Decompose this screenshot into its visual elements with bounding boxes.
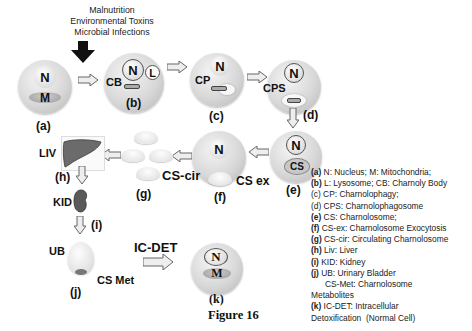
nucleus-k: N: [204, 248, 228, 266]
charnolosome-e: CS: [284, 158, 310, 175]
legend-row: (k) IC-DET: Intracellular: [311, 301, 448, 312]
legend-row: (b) L: Lysosome; CB: Charnoly Body: [311, 178, 448, 189]
kid-label: KID: [53, 196, 72, 208]
label-g: (g): [136, 187, 151, 201]
label-h: (h): [55, 170, 70, 184]
lysosome-b: L: [145, 65, 160, 80]
label-d: (d): [303, 108, 318, 122]
cs-ex-label: CS ex: [236, 174, 269, 188]
cb-label: CB: [106, 76, 122, 88]
label-e: (e): [286, 183, 301, 197]
legend-row: Detoxification (Normal Cell): [311, 313, 448, 324]
charnoly-body-c: [211, 86, 227, 91]
black-down-arrow-icon: [71, 41, 95, 63]
cps-label: CPS: [263, 82, 286, 94]
circulating-piece: [121, 149, 145, 162]
circulating-piece: [136, 167, 160, 180]
legend-row: (c) CP: Charnolophagy;: [311, 189, 448, 200]
cp-label: CP: [195, 74, 210, 86]
nucleus-b: N: [122, 59, 144, 81]
mito-k: M: [203, 268, 231, 279]
nucleus-f: N: [209, 139, 229, 159]
arrow-down-icon: [287, 108, 299, 128]
legend-row: (a) N: Nucleus; M: Mitochondria;: [311, 167, 448, 178]
arrow-left-icon: [172, 150, 192, 162]
legend-row: (e) CS: Charnolosome;: [311, 212, 448, 223]
legend-row: (h) Liv: Liver: [311, 245, 448, 256]
charnoly-body: [124, 84, 140, 89]
label-c: (c): [209, 109, 224, 123]
legend: (a) N: Nucleus; M: Mitochondria; (b) L: …: [311, 167, 448, 324]
circulating-piece: [134, 131, 158, 144]
cause-toxins: Environmental Toxins: [62, 16, 162, 27]
figure-caption: Figure 16: [208, 308, 259, 323]
nucleus-e: N: [286, 135, 306, 155]
liv-label: LIV: [39, 147, 56, 159]
label-f: (f): [214, 190, 226, 204]
cause-malnutrition: Malnutrition: [62, 5, 162, 16]
ic-det-label: IC-DET: [134, 240, 177, 255]
causes-text: Malnutrition Environmental Toxins Microb…: [62, 5, 162, 38]
label-a: (a): [36, 119, 51, 133]
label-b: (b): [126, 96, 141, 110]
exocytosis-vesicle: [208, 172, 232, 186]
arrow-down-icon: [74, 216, 86, 234]
cs-cir-label: CS-cir: [162, 168, 200, 183]
nucleus-a: N: [34, 66, 56, 88]
legend-row: (f) CS-ex: Charnolosome Exocytosis: [311, 223, 448, 234]
legend-row: Metabolites: [311, 290, 448, 301]
label-j: (j): [70, 285, 81, 299]
kidney-icon: [73, 189, 89, 213]
arrow-left-icon: [249, 146, 269, 158]
circulating-piece: [149, 149, 173, 162]
legend-row: (g) CS-cir: Circulating Charnolosome: [311, 234, 448, 245]
label-i: (i): [91, 218, 102, 232]
legend-row: CS-Met: Charnolosome: [311, 279, 448, 290]
metabolite-dot: [75, 269, 87, 275]
arrow-right-large-icon: [143, 254, 173, 270]
mito-a: M: [29, 92, 61, 103]
charnoly-body-d: [287, 98, 301, 103]
arrow-right-icon: [167, 61, 187, 73]
cause-infections: Microbial Infections: [62, 27, 162, 38]
legend-row: (j) UB: Urinary Bladder: [311, 268, 448, 279]
cs-met-label: CS Met: [97, 274, 134, 286]
liver-icon: [62, 138, 102, 168]
arrow-down-icon: [76, 166, 88, 184]
label-k: (k): [209, 292, 224, 307]
ub-label: UB: [49, 245, 65, 257]
legend-row: (i) KID: Kidney: [311, 257, 448, 268]
nucleus-c: N: [210, 56, 230, 76]
arrow-right-icon: [78, 74, 98, 86]
nucleus-d: N: [284, 63, 304, 83]
legend-row: (d) CPS: Charnolophagosome: [311, 201, 448, 212]
